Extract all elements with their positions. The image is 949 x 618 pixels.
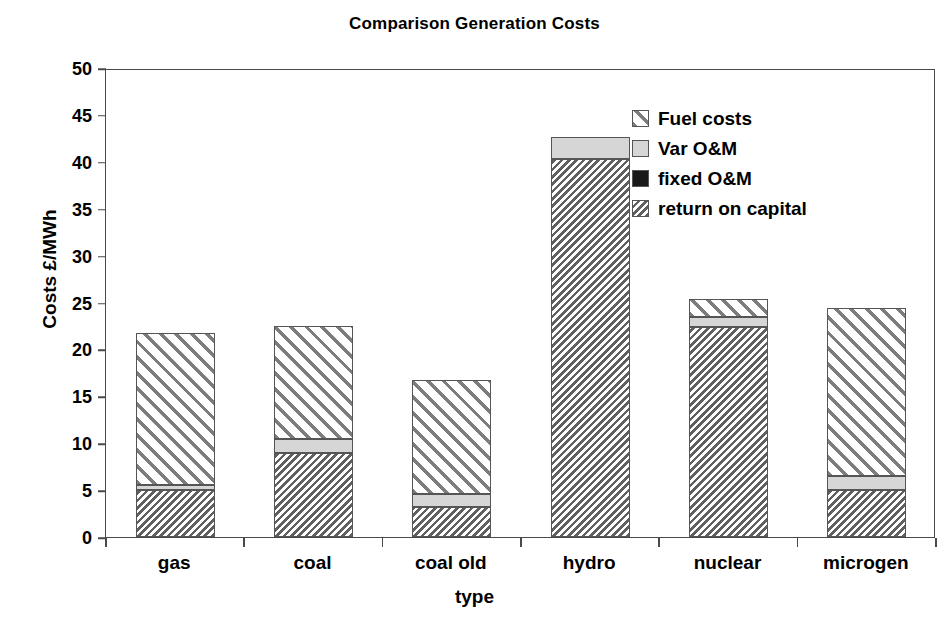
bar-segment-fuel-costs <box>689 299 768 317</box>
bar-segment-fuel-costs <box>274 326 353 439</box>
x-tick-label-gas: gas <box>158 552 191 574</box>
bar-segment-var-o-m <box>274 439 353 453</box>
y-tick-label: 30 <box>46 248 92 266</box>
y-tick-label: 40 <box>46 154 92 172</box>
bar-segment-fuel-costs <box>827 308 906 476</box>
bar-gas[interactable] <box>136 68 215 537</box>
bar-hydro[interactable] <box>551 68 630 537</box>
bar-segment-return-on-capital <box>551 159 630 537</box>
y-axis-label: Costs £/MWh <box>39 169 61 369</box>
bar-segment-var-o-m <box>551 137 630 159</box>
y-tick-label: 5 <box>46 482 92 500</box>
y-tick-label: 20 <box>46 341 92 359</box>
x-tick-mark <box>382 538 384 547</box>
legend-label: Fuel costs <box>658 109 752 128</box>
fuel-costs-swatch-icon <box>632 110 649 127</box>
legend-item-return-on-capital[interactable]: return on capital <box>632 193 882 223</box>
bar-segment-var-o-m <box>412 494 491 507</box>
x-tick-label-coal-old: coal old <box>415 552 487 574</box>
bar-segment-return-on-capital <box>136 490 215 537</box>
legend-item-fixed-o-m[interactable]: fixed O&M <box>632 163 882 193</box>
x-axis-label: type <box>0 586 949 608</box>
fixed-om-swatch-icon <box>632 170 649 187</box>
y-tick-label: 0 <box>46 529 92 547</box>
x-tick-mark <box>520 538 522 547</box>
bar-coal-old[interactable] <box>412 68 491 537</box>
x-tick-mark <box>243 538 245 547</box>
x-tick-label-nuclear: nuclear <box>694 552 762 574</box>
bar-segment-var-o-m <box>827 476 906 490</box>
x-tick-label-hydro: hydro <box>563 552 616 574</box>
y-tick-label: 10 <box>46 435 92 453</box>
var-om-swatch-icon <box>632 140 649 157</box>
bar-segment-return-on-capital <box>274 453 353 537</box>
legend-item-fuel-costs[interactable]: Fuel costs <box>632 103 882 133</box>
y-tick-label: 15 <box>46 388 92 406</box>
x-tick-mark <box>935 538 937 547</box>
bar-coal[interactable] <box>274 68 353 537</box>
y-tick-label: 35 <box>46 201 92 219</box>
legend-item-var-o-m[interactable]: Var O&M <box>632 133 882 163</box>
x-tick-mark <box>658 538 660 547</box>
bar-segment-return-on-capital <box>412 507 491 537</box>
chart-title: Comparison Generation Costs <box>0 14 949 34</box>
legend-label: Var O&M <box>658 139 737 158</box>
legend-label: return on capital <box>658 199 807 218</box>
bar-segment-return-on-capital <box>827 490 906 537</box>
bar-segment-return-on-capital <box>689 327 768 537</box>
return-on-capital-swatch-icon <box>632 200 649 217</box>
chart-legend: Fuel costsVar O&Mfixed O&Mreturn on capi… <box>632 103 882 223</box>
bar-segment-fuel-costs <box>136 333 215 486</box>
x-tick-label-coal: coal <box>293 552 331 574</box>
bar-segment-var-o-m <box>689 317 768 327</box>
bar-segment-fuel-costs <box>412 380 491 493</box>
generation-costs-chart: Comparison Generation Costs Costs £/MWh … <box>0 0 949 618</box>
x-tick-label-microgen: microgen <box>823 552 909 574</box>
y-tick-label: 25 <box>46 295 92 313</box>
y-tick-label: 45 <box>46 107 92 125</box>
bar-segment-var-o-m <box>136 485 215 490</box>
legend-label: fixed O&M <box>658 169 752 188</box>
x-tick-mark <box>105 538 107 547</box>
x-tick-mark <box>797 538 799 547</box>
y-tick-label: 50 <box>46 60 92 78</box>
